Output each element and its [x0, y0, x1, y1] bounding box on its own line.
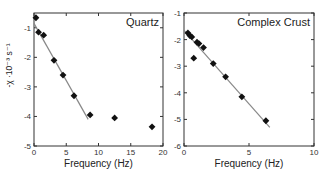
panel-title: Complex Crust — [237, 16, 310, 28]
y-tick-label: -3 — [174, 62, 182, 71]
fit-line — [34, 23, 88, 119]
y-tick-label: -1 — [174, 9, 182, 18]
x-axis-label: Frequency (Hz) — [215, 158, 284, 169]
y-tick-label: -6 — [174, 142, 182, 151]
y-tick-label: -3 — [24, 83, 32, 92]
x-tick-label: 10 — [94, 148, 103, 157]
y-tick-label: -2 — [174, 36, 182, 45]
y-tick-label: -1 — [24, 24, 32, 33]
x-tick-label: 10 — [310, 148, 319, 157]
data-point — [111, 115, 118, 122]
y-tick-label: -2 — [24, 53, 32, 62]
data-point — [60, 72, 67, 79]
chart-figure: 05101520-1-2-3-4-5QuartzFrequency (Hz)-χ… — [0, 0, 327, 177]
data-point — [87, 112, 94, 119]
x-tick-label: 15 — [126, 148, 135, 157]
x-tick-label: 5 — [247, 148, 252, 157]
panel-title: Quartz — [126, 16, 159, 28]
x-tick-label: 5 — [64, 148, 69, 157]
y-tick-label: -4 — [24, 112, 32, 121]
plot-frame — [34, 13, 163, 146]
complex-crust-panel: 0510-1-2-3-4-5-6Complex CrustFrequency (… — [174, 9, 319, 169]
x-tick-label: 20 — [159, 148, 168, 157]
x-axis-label: Frequency (Hz) — [64, 158, 133, 169]
y-tick-label: -5 — [174, 115, 182, 124]
plot-frame — [184, 13, 314, 146]
data-point — [190, 55, 197, 62]
x-tick-label: 0 — [182, 148, 187, 157]
data-point — [149, 123, 156, 130]
x-tick-label: 0 — [32, 148, 37, 157]
y-tick-label: -5 — [24, 142, 32, 151]
y-tick-label: -4 — [174, 89, 182, 98]
data-point — [263, 117, 270, 124]
quartz-panel: 05101520-1-2-3-4-5QuartzFrequency (Hz)-χ… — [4, 13, 168, 169]
y-axis-label: -χ ·10⁻³ s⁻¹ — [4, 43, 14, 87]
